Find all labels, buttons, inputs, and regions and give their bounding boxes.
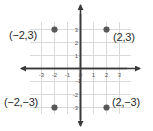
y-tick-label-neg3: -3	[68, 105, 78, 111]
data-point	[103, 26, 109, 32]
x-tick-label-pos1: 1	[87, 72, 100, 78]
x-tick-label-neg3: -3	[35, 72, 48, 78]
point-label-upper-right: (2,3)	[113, 32, 135, 43]
y-tick-label-neg2: -2	[68, 92, 78, 98]
x-tick-label-neg2: -2	[48, 72, 61, 78]
point-label-lower-left: (−2,−3)	[4, 97, 38, 108]
y-tick-label-pos1: 1	[68, 53, 78, 59]
y-tick-label-pos3: 3	[68, 27, 78, 33]
point-label-upper-left: (−2,3)	[9, 30, 37, 41]
data-point	[103, 104, 109, 110]
coordinate-plane-svg	[0, 0, 153, 131]
point-label-lower-right: (2,−3)	[112, 97, 140, 108]
coordinate-plane-figure: -3 -2 -1 0 1 2 3 3 2 1 -1 -2 -3 (−2,3) (…	[0, 0, 153, 131]
x-tick-label-pos3: 3	[113, 72, 126, 78]
data-point	[51, 26, 57, 32]
y-tick-label-pos2: 2	[68, 40, 78, 46]
y-tick-label-neg1: -1	[71, 78, 81, 84]
data-point	[51, 104, 57, 110]
x-tick-label-pos2: 2	[100, 72, 113, 78]
